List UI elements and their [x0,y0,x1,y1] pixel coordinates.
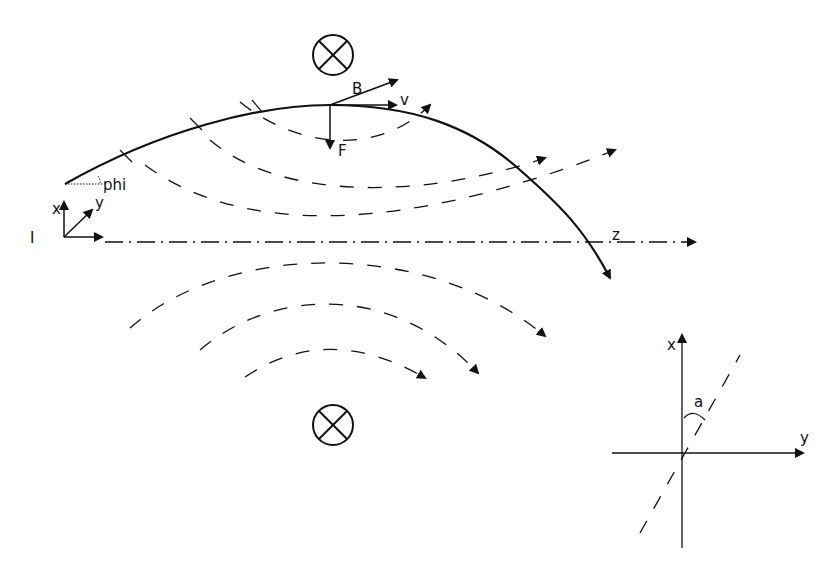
force-label: F [338,142,347,160]
axis-x-label: x [52,200,61,218]
field-label: B [352,80,362,98]
inset-x-label: x [667,336,676,354]
trajectory-ticks [120,100,262,162]
field-into-page-icon-bottom [313,405,353,445]
inset-y-label: y [800,429,809,447]
inset-angle-label: a [694,393,703,411]
inset-axes: x y a [612,335,809,548]
phi-label: phi [103,176,126,194]
axis-z-label: z [612,226,620,244]
force-vectors: B v F [330,80,409,160]
field-into-page-icon-top [313,35,353,75]
velocity-label: v [400,91,409,109]
origin-label: I [30,229,34,247]
origin-axes: x y I [30,194,104,247]
particle-trajectory [65,105,610,278]
lower-field-lines [130,263,545,378]
upper-field-lines [145,102,615,216]
axis-y-label: y [95,194,104,212]
diagram-canvas: phi x y I z B v F x y a [0,0,838,576]
